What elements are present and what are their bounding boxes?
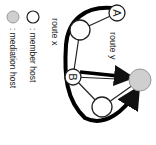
legend-mediation-icon <box>7 11 19 23</box>
svg-text:A: A <box>111 9 123 17</box>
node-member-bottom <box>92 97 112 117</box>
node-member-top <box>70 20 90 40</box>
node-mediation-host <box>129 69 151 91</box>
svg-text:B: B <box>67 73 79 80</box>
node-b: B <box>65 69 81 85</box>
legend-member-text: : member host <box>28 28 38 83</box>
legend-mediation-text: : mediation host <box>8 28 18 89</box>
legend-member-icon <box>27 11 39 23</box>
route-x-label: route x <box>50 18 60 46</box>
node-a: A <box>109 5 125 21</box>
legend: : member host : mediation host <box>7 11 39 89</box>
route-diagram: A B route x route y : member host : medi… <box>0 0 156 145</box>
route-y-arrow <box>80 72 128 77</box>
route-y-label: route y <box>108 32 118 60</box>
